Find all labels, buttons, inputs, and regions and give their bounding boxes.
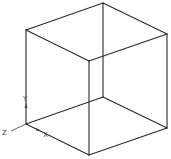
ucs-axis-indicator: Y Z X: [2, 95, 48, 139]
cube-edge-top-front-right: [89, 34, 167, 61]
cube-edge-bottom-front-right: [89, 128, 167, 155]
cube-edge-top-front-left: [26, 30, 89, 61]
y-axis-arrow-icon: [25, 103, 28, 108]
y-axis-label: Y: [22, 95, 28, 103]
z-axis-label: Z: [2, 129, 7, 137]
cube-edge-top-back-right: [103, 3, 167, 34]
cube-edge-bottom-back-right: [103, 97, 167, 128]
drawing-canvas: Y Z X: [0, 0, 171, 159]
z-axis-line: [11, 124, 26, 131]
x-axis-arrow-icon: [36, 128, 41, 131]
cube-edge-bottom-back-left: [26, 97, 103, 124]
cube-edge-bottom-front-left: [26, 124, 89, 155]
x-axis-label: X: [43, 131, 48, 139]
cube-edge-top-back-left: [26, 3, 103, 30]
